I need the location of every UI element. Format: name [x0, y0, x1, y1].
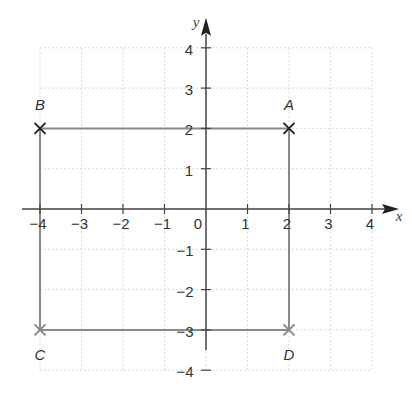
point-label-c: C — [35, 346, 46, 361]
point-label-a: A — [284, 97, 294, 112]
y-tick-label: 3 — [185, 82, 193, 97]
coordinate-diagram: −4−3−2−1012344321−1−2−3−4xyABCD — [0, 0, 412, 393]
x-tick-label: 4 — [366, 216, 374, 231]
y-axis-label: y — [193, 14, 200, 29]
y-tick-label: 1 — [185, 162, 193, 177]
y-tick-label: −4 — [176, 364, 193, 379]
x-tick-label: −2 — [112, 216, 129, 231]
y-tick-label: −2 — [176, 283, 193, 298]
x-axis-label: x — [396, 209, 403, 224]
y-tick-label: 2 — [185, 122, 193, 137]
y-tick-label: 4 — [185, 41, 193, 56]
y-tick-label: −3 — [176, 323, 193, 338]
point-label-d: D — [284, 346, 295, 361]
coordinate-grid — [0, 0, 412, 393]
x-tick-label: 2 — [283, 216, 291, 231]
x-tick-label: 0 — [194, 216, 202, 231]
x-tick-label: −1 — [154, 216, 171, 231]
x-tick-label: −3 — [71, 216, 88, 231]
y-tick-label: −1 — [176, 243, 193, 258]
x-tick-label: −4 — [29, 216, 46, 231]
point-label-b: B — [35, 97, 45, 112]
x-tick-label: 3 — [324, 216, 332, 231]
y-axis-arrow-icon — [201, 18, 211, 36]
x-tick-label: 1 — [241, 216, 249, 231]
